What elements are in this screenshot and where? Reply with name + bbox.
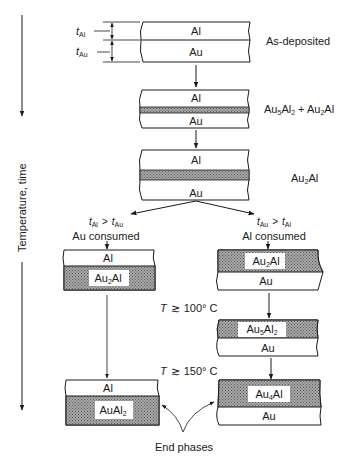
layer-al: Al [191, 154, 201, 166]
t-au-label: tAu [76, 45, 88, 58]
temp-150: T≳150° C [160, 365, 218, 377]
stack-right-1: Au2Al Au [217, 250, 324, 290]
end-arrow-left [162, 405, 183, 432]
layer-al: Al [191, 92, 201, 104]
interlayer [140, 170, 249, 180]
condition-left: tAl>tAu [89, 216, 123, 228]
arrow-split-left [131, 201, 196, 214]
caption-au-consumed: Au consumed [72, 230, 139, 242]
stage-label-as-deposited: As-deposited [266, 35, 330, 47]
layer-au: Au [189, 115, 202, 127]
stack-left-1: Al Au2Al [63, 250, 155, 290]
layer-al: Al [191, 25, 201, 37]
stack-stage3: Al Au [139, 150, 249, 200]
layer-au: Au [189, 46, 202, 58]
layer-au: Au [259, 275, 272, 287]
stack-stage2: Al Au [139, 90, 249, 128]
thickness-dimensions: tAl tAu [76, 22, 140, 62]
time-axis: Temperature, time [16, 15, 28, 410]
layer-au: Au [262, 410, 275, 422]
end-phases-label: End phases [155, 441, 214, 453]
stage-label-stage3: Au2Al [291, 172, 318, 185]
temp-100: T≳100° C [160, 302, 218, 314]
phase-formation-diagram: Temperature, time tAl tAu Al Au As-depos… [0, 0, 353, 466]
stack-right-2: Au5Al2 Au [217, 320, 318, 356]
layer-al: Al [103, 252, 113, 264]
stack-left-final: Al AuAl2 [65, 380, 159, 425]
layer-aual2: AuAl2 [99, 404, 126, 417]
condition-right: tAu>tAl [257, 216, 292, 228]
interlayer [140, 107, 249, 113]
layer-au: Au [189, 187, 202, 199]
t-al-label: tAl [76, 25, 86, 38]
arrow-split-right [196, 201, 254, 214]
stack-right-final: Au4Al Au [217, 380, 321, 425]
stack-as-deposited: Al Au [140, 22, 250, 62]
stage-label-stage2: Au5Al2 + Au2Al [264, 103, 334, 116]
layer-au: Au [261, 342, 274, 354]
caption-al-consumed: Al consumed [242, 230, 306, 242]
layer-al: Al [103, 382, 113, 394]
end-arrow-right [183, 402, 214, 432]
axis-label: Temperature, time [16, 163, 28, 252]
